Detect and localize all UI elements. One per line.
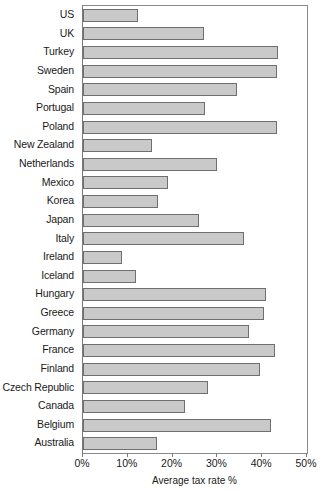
bar — [83, 27, 204, 40]
category-label: Greece — [0, 303, 78, 322]
bar-row — [83, 99, 307, 118]
bar-row — [83, 43, 307, 62]
bar-row — [83, 416, 307, 435]
bar-row — [83, 285, 307, 304]
bar — [83, 363, 260, 376]
bar — [83, 419, 271, 432]
bar — [83, 65, 277, 78]
category-label: Ireland — [0, 247, 78, 266]
bar-row — [83, 62, 307, 81]
category-label: Mexico — [0, 173, 78, 192]
x-axis-tick-label: 40% — [251, 457, 272, 470]
bar-row — [83, 248, 307, 267]
bar-row — [83, 230, 307, 249]
category-label: Turkey — [0, 42, 78, 61]
category-label: Iceland — [0, 266, 78, 285]
category-label: Poland — [0, 117, 78, 136]
bar-row — [83, 267, 307, 286]
category-label: Belgium — [0, 415, 78, 434]
category-label: Germany — [0, 322, 78, 341]
category-label: New Zealand — [0, 135, 78, 154]
bar-row — [83, 155, 307, 174]
bar-row — [83, 397, 307, 416]
category-label: Korea — [0, 191, 78, 210]
category-label: Netherlands — [0, 154, 78, 173]
bar-row — [83, 6, 307, 25]
bar — [83, 195, 158, 208]
bar — [83, 83, 237, 96]
bar — [83, 176, 168, 189]
bar-row — [83, 192, 307, 211]
bar-row — [83, 323, 307, 342]
plot-area — [82, 5, 308, 454]
bar-series — [83, 6, 307, 453]
category-label: Australia — [0, 433, 78, 452]
category-label: Canada — [0, 396, 78, 415]
bar-row — [83, 360, 307, 379]
bar-row — [83, 174, 307, 193]
category-label: Japan — [0, 210, 78, 229]
bar — [83, 288, 266, 301]
bar — [83, 46, 278, 59]
bar-row — [83, 136, 307, 155]
category-axis-labels: USUKTurkeySwedenSpainPortugalPolandNew Z… — [0, 5, 78, 452]
bar — [83, 158, 217, 171]
bar — [83, 381, 208, 394]
bar-row — [83, 341, 307, 360]
category-label: Portugal — [0, 98, 78, 117]
bar — [83, 251, 122, 264]
x-axis-tick-label: 10% — [116, 457, 137, 470]
x-axis-tick-labels: 0%10%20%30%40%50% — [0, 457, 322, 473]
bar-row — [83, 211, 307, 230]
category-label: France — [0, 340, 78, 359]
bar-row — [83, 434, 307, 453]
bar — [83, 325, 249, 338]
x-axis-tick-label: 50% — [295, 457, 316, 470]
bar — [83, 121, 277, 134]
category-label: Italy — [0, 229, 78, 248]
bar — [83, 307, 264, 320]
bar-row — [83, 25, 307, 44]
bar-chart: USUKTurkeySwedenSpainPortugalPolandNew Z… — [0, 0, 322, 492]
x-axis-title: Average tax rate % — [82, 475, 307, 487]
x-axis-tick-label: 30% — [206, 457, 227, 470]
bar — [83, 400, 185, 413]
category-label: Czech Republic — [0, 378, 78, 397]
bar — [83, 102, 205, 115]
bar — [83, 344, 275, 357]
category-label: Spain — [0, 80, 78, 99]
category-label: Finland — [0, 359, 78, 378]
bar-row — [83, 81, 307, 100]
category-label: Hungary — [0, 284, 78, 303]
bar — [83, 139, 152, 152]
bar — [83, 214, 199, 227]
bar — [83, 437, 157, 450]
bar — [83, 9, 138, 22]
bar-row — [83, 118, 307, 137]
category-label: Sweden — [0, 61, 78, 80]
category-label: US — [0, 5, 78, 24]
bar — [83, 232, 244, 245]
x-axis-tick-label: 20% — [161, 457, 182, 470]
bar-row — [83, 379, 307, 398]
bar-row — [83, 304, 307, 323]
x-axis-tick-label: 0% — [74, 457, 89, 470]
bar — [83, 270, 136, 283]
category-label: UK — [0, 24, 78, 43]
